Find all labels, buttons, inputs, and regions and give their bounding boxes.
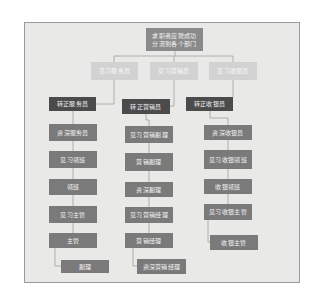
deputy-manager-box: 副理 [61, 260, 109, 273]
foreman-box: 领班 [49, 179, 97, 195]
sales-manager-box: 营销经理 [125, 233, 173, 248]
trainee-cashier-box: 见习收银员 [209, 62, 257, 80]
sales-deputy-box: 营销副理 [125, 153, 173, 171]
trainee-sales-box: 见习营销员 [150, 62, 198, 80]
trainee-supervisor-box: 见习主管 [49, 206, 97, 223]
regular-cashier-box: 转正收银员 [186, 97, 233, 111]
trainee-sales-deputy-box: 见习营销副理 [125, 126, 173, 143]
cashier-supervisor-box: 收银主管 [210, 235, 258, 250]
senior-cashier-box: 资深收银员 [204, 125, 252, 140]
trainee-foreman-box: 见习领班 [49, 151, 97, 168]
regular-sales-box: 转正营销员 [122, 99, 170, 114]
cashier-foreman-box: 收银领班 [204, 179, 252, 194]
senior-deputy-box: 资深副理 [125, 182, 173, 197]
trainee-waiter-box: 见习服务员 [91, 62, 138, 80]
regular-waiter-box: 转正服务员 [49, 97, 96, 111]
trainee-cashier-foreman-box: 见习收银领班 [204, 150, 252, 169]
root-box: 求职者应聘成功 分流到各个部门 [146, 28, 203, 51]
trainee-cashier-supervisor-box: 见习收银主管 [204, 204, 252, 220]
senior-waiter-box: 资深服务员 [49, 124, 97, 141]
supervisor-box: 主管 [49, 233, 97, 248]
senior-sales-manager-box: 资深营销经理 [137, 259, 186, 274]
trainee-sales-manager-box: 见习营销经理 [125, 207, 173, 223]
